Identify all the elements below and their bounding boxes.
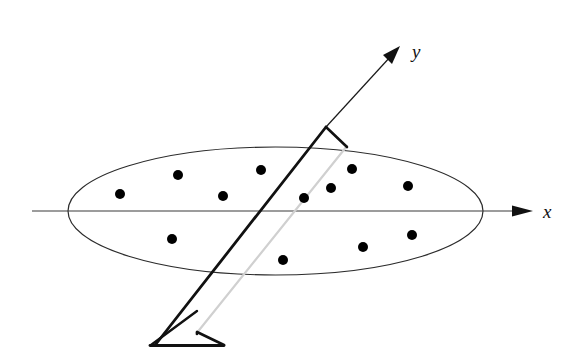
data-point [403, 181, 413, 191]
y-axis-label: y [410, 41, 421, 62]
data-point [173, 170, 183, 180]
data-point [407, 230, 417, 240]
diagram-canvas: x y [0, 0, 583, 356]
data-point [278, 255, 288, 265]
data-point [256, 165, 266, 175]
data-point [115, 189, 125, 199]
data-point [167, 234, 177, 244]
data-point [326, 183, 336, 193]
data-point [299, 193, 309, 203]
figure-root: x y [0, 0, 583, 356]
x-axis-label: x [542, 201, 552, 222]
data-point [347, 164, 357, 174]
page-background [0, 0, 583, 356]
data-point [218, 191, 228, 201]
data-point [358, 242, 368, 252]
